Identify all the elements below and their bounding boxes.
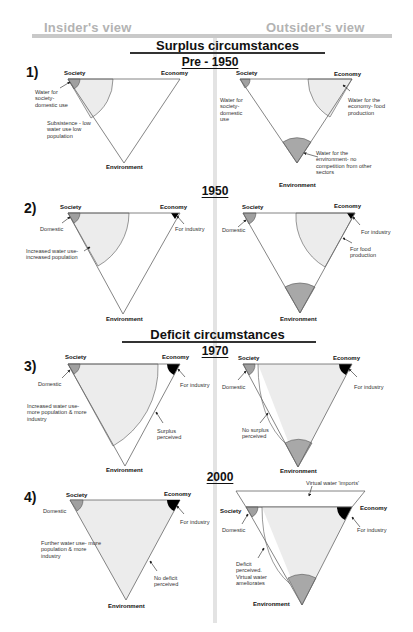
note-3-insider-industry: For industry xyxy=(180,382,210,388)
triangle-2-outsider xyxy=(238,213,360,313)
note-2-insider-increased: Increased water use- increased populatio… xyxy=(26,248,92,261)
note-3-insider-surplus: Surplus perceived xyxy=(157,428,189,441)
note-3-outsider-nosurplus: No surplus perceived xyxy=(242,427,278,440)
node-environment-1-outsider: Environment xyxy=(279,182,316,188)
node-environment-4-outsider: Environment xyxy=(253,601,290,607)
node-environment-1-insider: Environment xyxy=(106,164,143,170)
note-1-insider-subsistence: Subsistence - low water use low populati… xyxy=(47,120,97,139)
node-economy-2-insider: Economy xyxy=(160,204,187,210)
node-society-1-outsider: Society xyxy=(236,70,257,76)
note-2-outsider-food: For food production xyxy=(350,246,384,259)
note-2-outsider-domestic: Domestic xyxy=(222,227,245,233)
node-environment-4-insider: Environment xyxy=(108,603,145,609)
note-1-outsider-environment: Water for the environment- no competitio… xyxy=(316,150,374,175)
node-environment-2-outsider: Environment xyxy=(280,316,317,322)
node-environment-3-outsider: Environment xyxy=(280,468,317,474)
note-4-insider-domestic: Domestic xyxy=(43,508,66,514)
note-2-insider-industry: For industry xyxy=(175,226,205,232)
note-2-outsider-industry: For industry xyxy=(361,229,391,235)
triangle-3-outsider xyxy=(238,364,357,467)
triangle-4-outsider xyxy=(236,486,365,605)
note-4-insider-nodeficit: No deficit perceived xyxy=(154,575,186,588)
virtual-water-band xyxy=(236,491,365,507)
note-3-outsider-industry: For industry xyxy=(354,384,384,390)
node-economy-4-insider: Economy xyxy=(164,491,191,497)
node-economy-2-outsider: Economy xyxy=(334,203,361,209)
note-1-outsider-food: Water for the economy- food production xyxy=(348,97,398,116)
environment-wedge xyxy=(283,138,311,163)
node-society-1-insider: Society xyxy=(64,70,85,76)
node-society-3-outsider: Society xyxy=(238,355,259,361)
node-environment-2-insider: Environment xyxy=(106,316,143,322)
node-society-3-insider: Society xyxy=(65,354,86,360)
note-3-insider-domestic: Domestic xyxy=(38,381,61,387)
node-economy-1-insider: Economy xyxy=(161,70,188,76)
node-economy-4-outsider: Economy xyxy=(360,505,387,511)
note-4-insider-further: Further water use- more population & mor… xyxy=(41,540,103,559)
triangle-2-insider xyxy=(62,213,184,314)
note-2-insider-domestic: Domestic xyxy=(40,226,63,232)
note-4-outsider-virtual-imports: Virtual water 'imports' xyxy=(306,480,359,486)
note-3-insider-increased: Increased water use- more population & m… xyxy=(27,403,89,422)
note-4-outsider-deficit: Deficit perceived. Virtual water amelior… xyxy=(236,561,274,586)
note-4-outsider-industry: For industry xyxy=(357,527,387,533)
node-society-4-insider: Society xyxy=(66,492,87,498)
note-1-insider-domestic: Water for society- domestic use xyxy=(35,89,75,108)
food-wedge xyxy=(308,79,352,117)
note-4-outsider-domestic: Domestic xyxy=(222,527,245,533)
node-society-4-outsider: Society xyxy=(220,508,241,514)
node-economy-1-outsider: Economy xyxy=(334,71,361,77)
node-society-2-outsider: Society xyxy=(242,204,263,210)
note-3-outsider-domestic: Domestic xyxy=(222,384,245,390)
note-1-outsider-domestic: Water for society- domestic use xyxy=(220,97,252,122)
note-4-insider-industry: For industry xyxy=(180,519,210,525)
node-economy-3-insider: Economy xyxy=(162,354,189,360)
node-environment-3-insider: Environment xyxy=(106,467,143,473)
node-society-2-insider: Society xyxy=(60,204,81,210)
node-economy-3-outsider: Economy xyxy=(333,355,360,361)
